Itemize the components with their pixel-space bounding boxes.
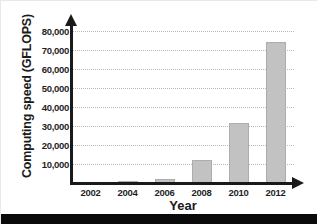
bar-2012[interactable]: [266, 42, 286, 183]
bar-2008[interactable]: [192, 160, 212, 183]
bar-slot: [146, 31, 183, 183]
x-tick-label: 2002: [72, 187, 109, 198]
bar-series: [72, 31, 294, 183]
x-axis-tick-labels: 200220042006200820102012: [72, 187, 294, 198]
plot-area: [72, 31, 294, 183]
y-tick-label: 60,000: [19, 64, 69, 75]
x-axis-line: [70, 182, 293, 185]
y-axis-tick-labels: 10,00020,00030,00040,00050,00060,00070,0…: [19, 1, 69, 214]
x-tick-label: 2010: [220, 187, 257, 198]
bar-2010[interactable]: [229, 123, 249, 183]
bar-slot: [257, 31, 294, 183]
y-tick-label: 40,000: [19, 102, 69, 113]
y-axis-arrow-icon: [65, 14, 77, 26]
y-tick-label: 10,000: [19, 159, 69, 170]
x-tick-label: 2004: [109, 187, 146, 198]
x-tick-label: 2012: [257, 187, 294, 198]
y-tick-label: 50,000: [19, 83, 69, 94]
chart-figure: Computing speed (GFLOPS) 10,00020,00030,…: [0, 0, 317, 224]
y-tick-label: 70,000: [19, 45, 69, 56]
bar-slot: [72, 31, 109, 183]
bar-slot: [220, 31, 257, 183]
x-tick-label: 2006: [146, 187, 183, 198]
bar-slot: [109, 31, 146, 183]
x-tick-label: 2008: [183, 187, 220, 198]
y-axis-line: [70, 25, 73, 184]
bottom-band: [1, 214, 317, 224]
y-tick-label: 20,000: [19, 140, 69, 151]
bar-slot: [183, 31, 220, 183]
plot-surface: Computing speed (GFLOPS) 10,00020,00030,…: [1, 1, 317, 214]
x-axis-title: Year: [72, 198, 294, 213]
y-tick-label: 80,000: [19, 26, 69, 37]
y-tick-label: 30,000: [19, 121, 69, 132]
